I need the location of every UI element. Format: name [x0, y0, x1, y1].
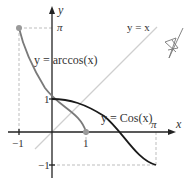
x-axis-label: x: [175, 117, 182, 131]
y-axis-label: y: [57, 3, 64, 17]
arccos-label: y = arccos(x): [34, 53, 97, 67]
function-graph: y x π π 1 1 −1 −1 y = arccos(x) y = Cos(…: [0, 0, 189, 188]
neg-one-x-label: −1: [12, 137, 24, 149]
one-x-label: 1: [83, 137, 89, 149]
neg-one-y-label: −1: [38, 159, 50, 171]
identity-label: y = x: [127, 21, 150, 33]
point-1-0: [83, 129, 89, 135]
point-neg1-pi: [16, 25, 22, 31]
x-axis-arrow-icon: [168, 129, 176, 135]
cos-label: y = Cos(x): [101, 111, 152, 125]
y-axis-arrow-icon: [49, 6, 55, 14]
scribble-icon: [165, 28, 183, 58]
one-y-label: 1: [44, 93, 50, 105]
pi-y-label: π: [57, 21, 63, 33]
identity-line: [35, 27, 157, 149]
